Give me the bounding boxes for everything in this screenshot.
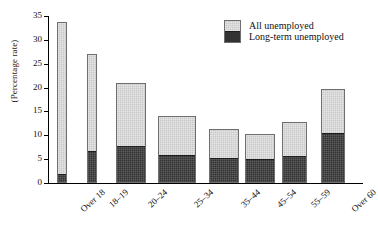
y-tick-label: 25 xyxy=(5,58,49,68)
bar-segment-long-term-unemployed xyxy=(159,155,195,182)
y-tick-label: 0 xyxy=(5,177,49,187)
legend-label-long-term-unemployed: Long-term unemployed xyxy=(249,31,344,42)
y-tick: 20 xyxy=(0,88,49,89)
bar-over-18 xyxy=(57,22,67,183)
bar-segment-long-term-unemployed xyxy=(58,174,66,182)
y-tick-label: 35 xyxy=(5,10,49,20)
x-tick-label: 35–44 xyxy=(239,187,262,209)
y-tick-label: 15 xyxy=(5,105,49,115)
y-tick: 5 xyxy=(0,159,49,160)
bar-45-54 xyxy=(245,134,275,183)
y-tick: 0 xyxy=(0,183,49,184)
y-tick: 35 xyxy=(0,16,49,17)
bar-20-24 xyxy=(116,83,146,183)
bar-over-60 xyxy=(321,89,345,183)
bar-35-44 xyxy=(209,129,239,183)
y-tick-label: 10 xyxy=(5,129,49,139)
x-tick-label: 45–54 xyxy=(275,187,298,209)
y-tick-label: 30 xyxy=(5,34,49,44)
bar-25-34 xyxy=(158,116,196,183)
bar-18-19 xyxy=(87,54,97,183)
bar-segment-long-term-unemployed xyxy=(117,146,145,182)
x-tick-label: 18–19 xyxy=(107,187,130,209)
x-axis-line xyxy=(48,183,363,184)
x-tick-label: Over 18 xyxy=(79,187,107,214)
y-tick-label: 5 xyxy=(5,153,49,163)
y-tick-label: 20 xyxy=(5,82,49,92)
x-tick-label: 55–59 xyxy=(309,187,332,209)
bar-segment-long-term-unemployed xyxy=(246,159,274,182)
bar-segment-long-term-unemployed xyxy=(210,158,238,182)
bar-segment-long-term-unemployed xyxy=(283,156,306,182)
legend-label-all-unemployed: All unemployed xyxy=(249,20,344,31)
y-tick: 10 xyxy=(0,135,49,136)
y-tick: 25 xyxy=(0,64,49,65)
y-tick: 30 xyxy=(0,40,49,41)
y-tick: 15 xyxy=(0,111,49,112)
bar-55-59 xyxy=(282,122,307,183)
dark-gray-swatch xyxy=(225,31,240,42)
legend-swatch-combined xyxy=(224,20,241,43)
chart-legend: All unemployed Long-term unemployed xyxy=(224,20,344,43)
bar-segment-long-term-unemployed xyxy=(88,151,96,182)
light-gray-swatch xyxy=(225,21,240,31)
x-tick-label: Over 60 xyxy=(350,187,378,214)
x-tick-label: 25–34 xyxy=(192,187,215,209)
bar-segment-all-unemployed xyxy=(58,23,66,182)
x-tick-label: 20–24 xyxy=(146,187,169,209)
bar-segment-long-term-unemployed xyxy=(322,133,344,182)
